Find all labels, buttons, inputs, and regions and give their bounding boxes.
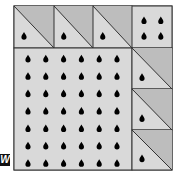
corner-square <box>132 6 172 48</box>
watermark-logo: W <box>0 154 10 166</box>
big-square <box>14 48 132 170</box>
quilt-diagram <box>0 0 175 176</box>
